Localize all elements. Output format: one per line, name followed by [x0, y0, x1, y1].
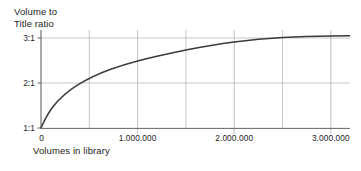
x-tick-label-2m: 2.000.000: [215, 133, 253, 143]
x-tick-label-1m: 1.000.000: [119, 133, 157, 143]
data-series-line: [41, 36, 350, 128]
chart-figure: Volume to Title ratio 3:1: [0, 0, 361, 171]
x-tick-label-3m: 3.000.000: [312, 133, 350, 143]
y-tick-marks: [38, 38, 42, 128]
y-tick-label-3to1: 3:1: [23, 33, 35, 43]
y-tick-label-2to1: 2:1: [23, 78, 35, 88]
x-tick-label-0: 0: [39, 133, 44, 143]
x-axis-title: Volumes in library: [33, 145, 110, 157]
horizontal-gridlines: [41, 38, 350, 83]
y-tick-label-1to1: 1:1: [23, 123, 35, 133]
